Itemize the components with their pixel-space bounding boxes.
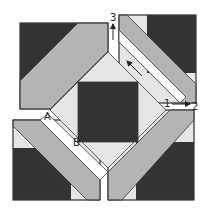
- label-2: 2: [192, 101, 198, 112]
- label-3: 3: [110, 12, 116, 23]
- label-b: B: [73, 137, 80, 148]
- quilt-diagram: 3 1 2 A B: [0, 0, 216, 217]
- label-a: A: [44, 111, 51, 122]
- label-1: 1: [164, 98, 170, 109]
